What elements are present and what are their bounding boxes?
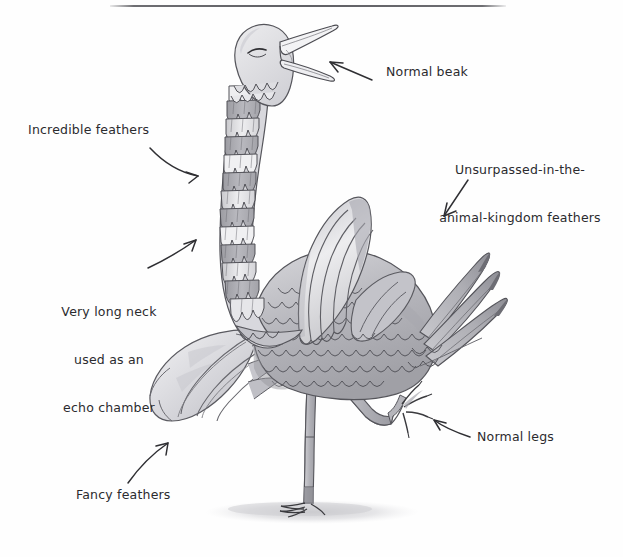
arrow-incredible-feathers — [150, 148, 198, 183]
arrow-very-long-neck — [148, 240, 196, 268]
arrow-normal-legs — [434, 420, 470, 437]
illustration-canvas: Normal beak Incredible feathers Unsurpas… — [0, 0, 623, 557]
callout-line-2: used as an — [34, 352, 184, 368]
callout-line-1: Very long neck — [34, 304, 184, 320]
callout-label-very-long-neck: Very long neck used as an echo chamber — [34, 272, 184, 448]
arrow-fancy-feathers — [128, 443, 168, 483]
callout-label-fancy-feathers: Fancy feathers — [76, 487, 171, 503]
callout-line-2: animal-kingdom feathers — [430, 210, 610, 226]
callout-line-1: Unsurpassed-in-the- — [430, 162, 610, 178]
callout-label-normal-beak: Normal beak — [386, 64, 468, 80]
callout-line-3: echo chamber — [34, 400, 184, 416]
callout-label-incredible-feathers: Incredible feathers — [28, 122, 149, 138]
arrow-normal-beak — [330, 62, 372, 80]
callout-label-unsurpassed-feathers: Unsurpassed-in-the- animal-kingdom feath… — [430, 130, 610, 258]
callout-label-normal-legs: Normal legs — [477, 429, 554, 445]
standing-leg — [280, 385, 325, 517]
